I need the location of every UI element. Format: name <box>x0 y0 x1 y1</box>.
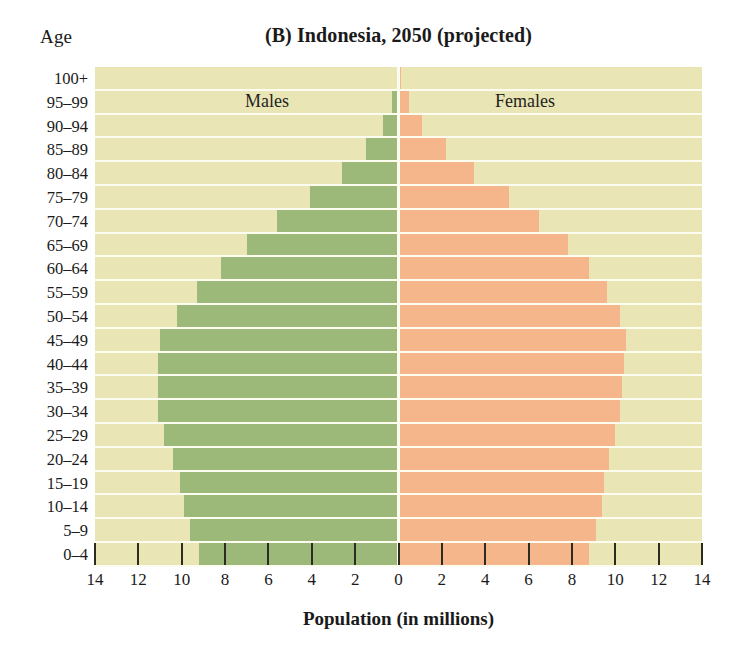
bar-female <box>399 495 603 517</box>
x-tick-label: 12 <box>639 570 679 590</box>
bar-female <box>399 448 609 470</box>
pyramid-row <box>95 448 702 472</box>
bar-male <box>197 281 399 303</box>
legend-label-males: Males <box>245 91 289 112</box>
x-tick-label: 8 <box>552 570 592 590</box>
bar-male <box>184 495 399 517</box>
pyramid-row <box>95 91 702 115</box>
bar-female <box>399 257 590 279</box>
pyramid-row <box>95 281 702 305</box>
pyramid-row <box>95 305 702 329</box>
y-tick-label: 85–89 <box>0 142 88 159</box>
bar-male <box>342 162 398 184</box>
legend-label-females: Females <box>495 91 555 112</box>
bar-female <box>399 234 568 256</box>
bar-male <box>158 376 399 398</box>
bar-male <box>366 138 399 160</box>
y-axis-title: Age <box>40 26 72 48</box>
bar-male <box>180 472 399 494</box>
bar-female <box>399 519 596 541</box>
pyramid-row <box>95 115 702 139</box>
bar-female <box>399 186 510 208</box>
bar-female <box>399 353 624 375</box>
x-tick-label: 10 <box>162 570 202 590</box>
y-tick-label: 55–59 <box>0 285 88 302</box>
y-tick-label: 0–4 <box>0 547 88 564</box>
bar-female <box>399 376 622 398</box>
pyramid-row <box>95 519 702 543</box>
x-tick-label: 2 <box>335 570 375 590</box>
pyramid-row <box>95 234 702 258</box>
y-tick-label: 95–99 <box>0 95 88 112</box>
y-tick-label: 30–34 <box>0 404 88 421</box>
pyramid-row <box>95 138 702 162</box>
pyramid-row <box>95 186 702 210</box>
bar-male <box>221 257 399 279</box>
bar-female <box>399 67 401 89</box>
pyramid-row <box>95 495 702 519</box>
y-tick-label: 5–9 <box>0 523 88 540</box>
bar-female <box>399 543 590 565</box>
pyramid-row <box>95 543 702 567</box>
bar-male <box>383 115 398 137</box>
bar-female <box>399 400 620 422</box>
bar-male <box>247 234 399 256</box>
y-tick-label: 45–49 <box>0 333 88 350</box>
bar-female <box>399 281 607 303</box>
pyramid-row <box>95 353 702 377</box>
bar-female <box>399 305 620 327</box>
bar-female <box>399 138 447 160</box>
bar-male <box>173 448 398 470</box>
y-tick-label: 60–64 <box>0 261 88 278</box>
bar-female <box>399 472 605 494</box>
bar-female <box>399 210 540 232</box>
bar-male <box>158 400 399 422</box>
bar-female <box>399 162 475 184</box>
x-tick-label: 2 <box>422 570 462 590</box>
pyramid-row <box>95 400 702 424</box>
x-tick-label: 0 <box>379 570 419 590</box>
x-tick-label: 6 <box>248 570 288 590</box>
bar-male <box>164 424 398 446</box>
x-tick-label: 14 <box>682 570 722 590</box>
pyramid-row <box>95 472 702 496</box>
y-tick-label: 40–44 <box>0 357 88 374</box>
plot-area: Males Females <box>95 67 702 567</box>
pyramid-row <box>95 67 702 91</box>
y-tick-label: 20–24 <box>0 452 88 469</box>
x-axis-title: Population (in millions) <box>95 608 702 630</box>
pyramid-row <box>95 162 702 186</box>
y-tick-label: 100+ <box>0 71 88 88</box>
pyramid-row <box>95 210 702 234</box>
bar-male <box>199 543 398 565</box>
bar-male <box>160 329 398 351</box>
bar-male <box>177 305 398 327</box>
y-tick-label: 10–14 <box>0 499 88 516</box>
population-pyramid-figure: Age (B) Indonesia, 2050 (projected) 100+… <box>0 0 735 656</box>
y-tick-label: 50–54 <box>0 309 88 326</box>
pyramid-row <box>95 329 702 353</box>
y-tick-label: 25–29 <box>0 428 88 445</box>
pyramid-row <box>95 257 702 281</box>
y-axis-tick-labels: 100+95–9990–9485–8980–8475–7970–7465–696… <box>0 67 88 567</box>
pyramid-row <box>95 376 702 400</box>
x-axis-tick-labels: 141210864202468101214 <box>95 570 702 596</box>
x-tick-label: 8 <box>205 570 245 590</box>
y-tick-label: 70–74 <box>0 214 88 231</box>
chart-title: (B) Indonesia, 2050 (projected) <box>95 24 702 47</box>
bar-female <box>399 329 627 351</box>
y-tick-label: 90–94 <box>0 119 88 136</box>
x-tick-label: 4 <box>465 570 505 590</box>
x-tick-label: 10 <box>595 570 635 590</box>
y-tick-label: 75–79 <box>0 190 88 207</box>
x-tick-label: 4 <box>292 570 332 590</box>
bar-male <box>310 186 399 208</box>
bar-female <box>399 424 616 446</box>
y-tick-label: 15–19 <box>0 476 88 493</box>
pyramid-row <box>95 424 702 448</box>
bar-male <box>158 353 399 375</box>
x-tick-label: 12 <box>118 570 158 590</box>
x-tick-label: 14 <box>75 570 115 590</box>
x-tick-label: 6 <box>509 570 549 590</box>
y-tick-label: 35–39 <box>0 380 88 397</box>
